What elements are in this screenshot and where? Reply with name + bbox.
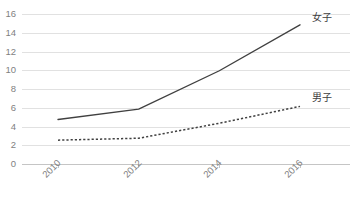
y-tick-label: 16 bbox=[0, 9, 16, 19]
line-chart: 0246810121416 2010201220142016 女子男子 bbox=[0, 0, 353, 197]
y-tick-label: 10 bbox=[0, 65, 16, 75]
y-tick-label: 4 bbox=[0, 122, 16, 132]
gridlines bbox=[22, 15, 350, 146]
y-tick-label: 6 bbox=[0, 103, 16, 113]
y-tick-label: 0 bbox=[0, 159, 16, 169]
data-series bbox=[58, 25, 300, 140]
series-line-2 bbox=[58, 106, 300, 140]
series-label-2: 男子 bbox=[312, 92, 332, 103]
series-label-1: 女子 bbox=[312, 12, 332, 23]
y-tick-label: 14 bbox=[0, 28, 16, 38]
y-tick-label: 12 bbox=[0, 47, 16, 57]
y-tick-label: 2 bbox=[0, 140, 16, 150]
y-tick-label: 8 bbox=[0, 84, 16, 94]
series-line-1 bbox=[58, 25, 300, 120]
